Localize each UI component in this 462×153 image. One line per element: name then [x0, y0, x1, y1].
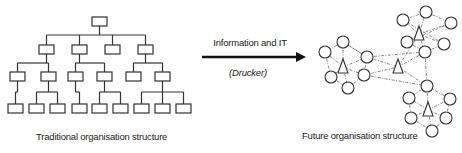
org-node-box: [155, 72, 170, 81]
org-node-box: [72, 45, 87, 54]
left-caption: Traditional organisation structure: [36, 131, 167, 142]
network-node-circle: [405, 112, 417, 124]
org-node-box: [50, 104, 65, 113]
org-node-box: [105, 45, 120, 54]
network-node-circle: [319, 46, 331, 58]
network-node-circle: [403, 92, 415, 104]
network-node-circle: [444, 93, 456, 105]
org-node-box: [8, 104, 23, 113]
right-caption: Future organisation structure: [302, 130, 418, 141]
org-node-box: [97, 72, 112, 81]
org-node-box: [113, 104, 128, 113]
org-node-box: [10, 72, 25, 81]
network-node-circle: [426, 125, 438, 137]
arrow-label-top: Information and IT: [213, 37, 287, 48]
network-node-circle: [401, 36, 413, 48]
org-node-box: [134, 104, 149, 113]
org-node-box: [155, 104, 170, 113]
network-node-circle: [421, 80, 433, 92]
future-org-network: [319, 6, 457, 137]
network-node-circle: [337, 36, 349, 48]
hub-triangle-icon: [423, 102, 433, 116]
org-node-box: [29, 104, 44, 113]
network-node-circle: [397, 14, 409, 26]
network-node-circle: [358, 69, 370, 81]
arrow-head-icon: [296, 52, 306, 62]
network-node-circle: [420, 6, 432, 18]
org-node-box: [68, 72, 83, 81]
network-node-circle: [445, 17, 457, 29]
network-node-circle: [440, 112, 452, 124]
org-node-box: [176, 104, 191, 113]
arrow-label-bottom: (Drucker): [229, 67, 267, 78]
org-node-box: [39, 45, 54, 54]
network-node-circle: [438, 38, 450, 50]
hub-triangle-icon: [414, 26, 424, 40]
org-node-box: [138, 45, 153, 54]
org-node-box: [92, 17, 107, 26]
network-node-circle: [419, 46, 431, 58]
traditional-org-tree: [8, 17, 191, 113]
org-node-box: [41, 72, 56, 81]
hub-triangle-icon: [338, 59, 348, 73]
network-node-circle: [342, 82, 354, 94]
network-node-circle: [361, 51, 373, 63]
transition-arrow: [202, 52, 306, 62]
org-node-box: [126, 72, 141, 81]
network-node-circle: [325, 71, 337, 83]
org-node-box: [92, 104, 107, 113]
org-node-box: [72, 104, 87, 113]
